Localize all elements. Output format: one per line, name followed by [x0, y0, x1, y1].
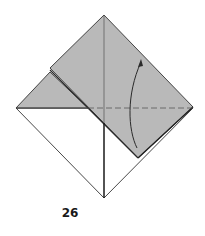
step-number-label: 26 [58, 206, 82, 220]
origami-diagram [0, 0, 205, 236]
